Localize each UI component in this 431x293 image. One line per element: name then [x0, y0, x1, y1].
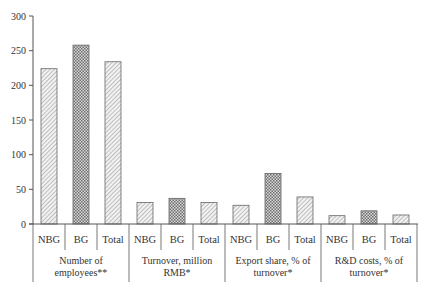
- x-group-label: Export share, % of: [236, 255, 312, 266]
- x-category-label: NBG: [230, 234, 253, 245]
- y-tick-label: 0: [21, 219, 26, 230]
- bar-bg: [265, 173, 281, 224]
- bar-total: [105, 62, 121, 224]
- x-axis-table: NBGBGTotalNumber ofemployees**NBGBGTotal…: [29, 224, 418, 282]
- x-category-label: Total: [294, 234, 316, 245]
- bar-bg: [361, 211, 377, 224]
- x-category-label: BG: [266, 234, 281, 245]
- y-tick-label: 200: [11, 80, 26, 91]
- bar-bg: [73, 45, 89, 224]
- y-tick-label: 300: [11, 11, 26, 22]
- x-category-label: NBG: [326, 234, 349, 245]
- x-group-label: Turnover, million: [142, 255, 212, 266]
- y-tick-label: 150: [11, 115, 26, 126]
- x-category-label: Total: [198, 234, 220, 245]
- x-group-label: RMB*: [163, 267, 190, 278]
- x-group-label: turnover*: [350, 267, 389, 278]
- bars: [41, 45, 409, 224]
- grouped-bar-chart: 050100150200250300 NBGBGTotalNumber ofem…: [0, 0, 431, 293]
- bar-bg: [169, 198, 185, 224]
- bar-nbg: [137, 203, 153, 224]
- bar-nbg: [41, 69, 57, 224]
- bar-total: [297, 197, 313, 224]
- x-group-label: R&D costs, % of: [335, 255, 404, 266]
- x-category-label: Total: [390, 234, 412, 245]
- bar-nbg: [329, 216, 345, 224]
- y-tick-label: 250: [11, 45, 26, 56]
- y-tick-label: 100: [11, 149, 26, 160]
- x-category-label: Total: [102, 234, 124, 245]
- x-group-label: turnover*: [254, 267, 293, 278]
- x-category-label: BG: [170, 234, 185, 245]
- x-category-label: BG: [362, 234, 377, 245]
- bar-total: [393, 215, 409, 224]
- y-axis: 050100150200250300: [11, 11, 33, 230]
- bar-nbg: [233, 205, 249, 224]
- bar-total: [201, 203, 217, 224]
- x-group-label: Number of: [59, 255, 103, 266]
- x-category-label: NBG: [134, 234, 157, 245]
- x-category-label: BG: [74, 234, 89, 245]
- x-category-label: NBG: [38, 234, 61, 245]
- x-group-label: employees**: [55, 267, 108, 278]
- y-tick-label: 50: [16, 184, 26, 195]
